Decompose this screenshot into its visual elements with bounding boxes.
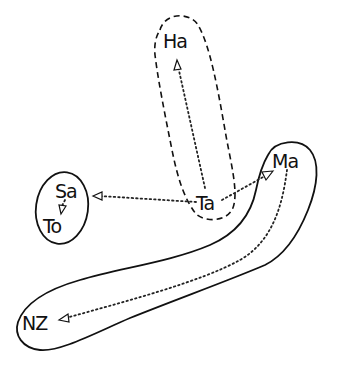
edge-ta-to-ma	[222, 176, 265, 200]
arrowhead-ha	[174, 60, 181, 70]
node-label-sa: Sa	[55, 180, 77, 202]
diagram-canvas: Ha Ta Ma Sa To NZ	[0, 0, 337, 371]
edge-ta-to-sa	[100, 196, 196, 202]
node-label-ma: Ma	[272, 150, 298, 172]
edge-ma-to-nz	[66, 170, 287, 318]
edge-ta-to-ha	[178, 66, 205, 188]
arrowhead-sa	[93, 192, 102, 200]
node-label-to: To	[42, 215, 61, 237]
arrowhead-to	[59, 205, 66, 214]
node-label-ta: Ta	[195, 192, 214, 214]
arrowhead-ma	[262, 171, 273, 180]
arrowhead-nz	[59, 314, 69, 322]
node-label-nz: NZ	[22, 312, 48, 334]
node-label-ha: Ha	[163, 30, 187, 52]
